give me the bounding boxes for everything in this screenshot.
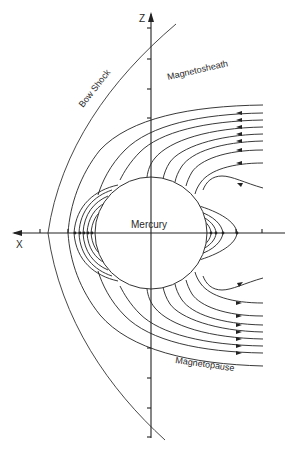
planet-label: Mercury [131, 219, 167, 230]
z-axis-label: Z [139, 13, 145, 24]
mercury-magnetosphere-diagram: Z X Bow Shock Magnetosheath Mercury Magn… [0, 0, 295, 453]
bow-shock-label: Bow Shock [77, 67, 113, 109]
tail-field-lines-north [98, 113, 263, 195]
z-axis-arrow-icon [148, 12, 154, 22]
tail-arrows-south [236, 282, 243, 355]
x-axis-label: X [16, 239, 23, 250]
tail-arrows-north [236, 111, 243, 187]
magnetosheath-label: Magnetosheath [166, 58, 229, 82]
x-axis-arrow-icon [12, 230, 22, 236]
magnetopause-label: Magnetopause [175, 355, 235, 373]
